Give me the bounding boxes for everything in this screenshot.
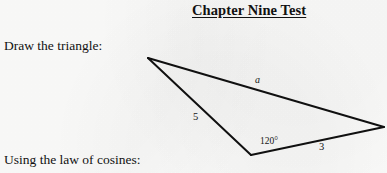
prompt-using-law-of-cosines: Using the law of cosines: xyxy=(4,152,140,168)
triangle-label-angle-120: 120° xyxy=(260,137,278,147)
triangle-label-side-a: a xyxy=(255,75,260,85)
triangle-label-side-3: 3 xyxy=(319,142,324,153)
triangle-label-side-5: 5 xyxy=(193,112,198,123)
worksheet-page: Chapter Nine Test Draw the triangle: a 5… xyxy=(0,0,387,173)
triangle-figure xyxy=(0,0,387,173)
